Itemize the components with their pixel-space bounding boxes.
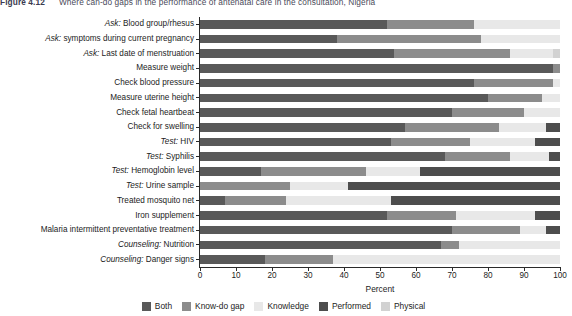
bar-segment-knowledge xyxy=(286,196,390,205)
legend-swatch xyxy=(381,302,390,311)
legend-swatch xyxy=(319,302,328,311)
bar-segment-both xyxy=(200,138,391,147)
bar-segment-performed xyxy=(549,152,560,161)
bar-segment-both xyxy=(200,49,394,58)
figure-caption-text: Where can-do gaps in the performance of … xyxy=(59,0,375,7)
bar-row: Ask: Blood group/rhesus xyxy=(200,17,560,32)
bar-row: Measure uterine height xyxy=(200,91,560,106)
bar-row: Malaria intermittent preventative treatm… xyxy=(200,223,560,238)
bar-segment-know-do-gap xyxy=(452,226,520,235)
y-axis-label: Ask: symptoms during current pregnancy xyxy=(2,34,194,43)
bar-segment-both xyxy=(200,226,452,235)
bar-segment-know-do-gap xyxy=(394,49,509,58)
y-axis-label: Ask: Blood group/rhesus xyxy=(2,19,194,28)
bar-row: Ask: symptoms during current pregnancy xyxy=(200,32,560,47)
y-axis-label: Check blood pressure xyxy=(2,78,194,87)
chart-legend: BothKnow-do gapKnowledgePerformedPhysica… xyxy=(0,299,567,313)
bar-segment-knowledge xyxy=(459,241,560,250)
y-axis-label: Test: Urine sample xyxy=(2,181,194,190)
bar-row: Treated mosquito net xyxy=(200,193,560,208)
bar-segment-know-do-gap xyxy=(225,196,286,205)
stacked-bar xyxy=(200,241,560,250)
x-axis-tick-label: 90 xyxy=(511,271,537,280)
bar-segment-know-do-gap xyxy=(488,94,542,103)
x-axis-tick-label: 70 xyxy=(439,271,465,280)
stacked-bar xyxy=(200,255,560,264)
bar-row: Check fetal heartbeat xyxy=(200,105,560,120)
bar-segment-both xyxy=(200,35,337,44)
y-axis-label: Check fetal heartbeat xyxy=(2,108,194,117)
bar-row: Check for swelling xyxy=(200,120,560,135)
stacked-bar xyxy=(200,211,560,220)
x-axis-tick-label: 60 xyxy=(403,271,429,280)
bar-row: Counseling: Danger signs xyxy=(200,252,560,267)
bar-segment-knowledge xyxy=(510,49,553,58)
bar-segment-knowledge xyxy=(470,138,535,147)
x-axis-tick-label: 50 xyxy=(367,271,393,280)
bar-segment-know-do-gap xyxy=(265,255,333,264)
bar-segment-know-do-gap xyxy=(405,123,499,132)
y-axis-label: Test: Syphilis xyxy=(2,152,194,161)
x-axis-tick-label: 20 xyxy=(259,271,285,280)
y-axis-label: Treated mosquito net xyxy=(2,196,194,205)
bar-row: Counseling: Nutrition xyxy=(200,238,560,253)
bar-segment-knowledge xyxy=(553,79,560,88)
stacked-bar xyxy=(200,35,560,44)
bar-row: Test: Hemoglobin level xyxy=(200,164,560,179)
bar-segment-performed xyxy=(348,182,560,191)
bar-segment-both xyxy=(200,196,225,205)
bar-segment-both xyxy=(200,94,488,103)
bar-row: Ask: Last date of menstruation xyxy=(200,46,560,61)
bar-row: Iron supplement xyxy=(200,208,560,223)
stacked-bar xyxy=(200,64,560,73)
bar-segment-physical xyxy=(553,49,560,58)
y-axis-label: Counseling: Nutrition xyxy=(2,240,194,249)
bar-segment-both xyxy=(200,255,265,264)
legend-label: Knowledge xyxy=(267,301,308,311)
bar-segment-know-do-gap xyxy=(553,64,560,73)
legend-label: Physical xyxy=(394,301,425,311)
stacked-bar xyxy=(200,20,560,29)
legend-item[interactable]: Knowledge xyxy=(254,301,308,311)
bar-segment-knowledge xyxy=(524,108,560,117)
legend-item[interactable]: Physical xyxy=(381,301,425,311)
bar-segment-know-do-gap xyxy=(474,79,553,88)
stacked-bar xyxy=(200,108,560,117)
legend-label: Know-do gap xyxy=(195,301,244,311)
bar-segment-performed xyxy=(546,123,560,132)
bar-segment-knowledge xyxy=(366,167,420,176)
bar-segment-know-do-gap xyxy=(261,167,365,176)
x-axis-tick-label: 10 xyxy=(223,271,249,280)
stacked-bar xyxy=(200,226,560,235)
bar-segment-know-do-gap xyxy=(445,152,510,161)
y-axis-label: Measure weight xyxy=(2,63,194,72)
legend-swatch xyxy=(182,302,191,311)
bar-row: Test: HIV xyxy=(200,135,560,150)
bar-segment-both xyxy=(200,167,261,176)
stacked-bar xyxy=(200,138,560,147)
y-axis-label: Measure uterine height xyxy=(2,93,194,102)
stacked-bar xyxy=(200,167,560,176)
legend-item[interactable]: Know-do gap xyxy=(182,301,244,311)
legend-label: Both xyxy=(155,301,172,311)
legend-item[interactable]: Both xyxy=(142,301,172,311)
bar-segment-both xyxy=(200,211,387,220)
bar-segment-knowledge xyxy=(542,94,560,103)
bar-segment-know-do-gap xyxy=(200,182,290,191)
bar-segment-both xyxy=(200,108,452,117)
bar-segment-know-do-gap xyxy=(387,20,473,29)
bar-segment-knowledge xyxy=(520,226,545,235)
plot-area: Ask: Blood group/rhesusAsk: symptoms dur… xyxy=(200,17,560,267)
bar-segment-know-do-gap xyxy=(452,108,524,117)
bar-segment-performed xyxy=(546,226,560,235)
x-axis-tick-label: 40 xyxy=(331,271,357,280)
stacked-bar xyxy=(200,123,560,132)
legend-item[interactable]: Performed xyxy=(319,301,371,311)
stacked-bar xyxy=(200,196,560,205)
figure-caption: Figure 4.12Where can-do gaps in the perf… xyxy=(0,0,567,9)
y-axis-label: Test: Hemoglobin level xyxy=(2,166,194,175)
figure-number: Figure 4.12 xyxy=(0,0,45,7)
bar-segment-knowledge xyxy=(510,152,550,161)
x-axis-tick-label: 100 xyxy=(547,271,572,280)
